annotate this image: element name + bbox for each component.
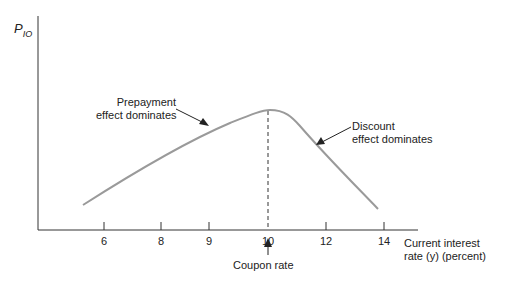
prepayment-arrow-head xyxy=(199,118,209,126)
x-axis-label: Current interest rate (y) (percent) xyxy=(404,237,486,263)
x-tick-label: 8 xyxy=(158,235,164,247)
discount-arrow-line xyxy=(322,127,351,142)
x-ticks xyxy=(104,222,384,230)
x-tick-label: 6 xyxy=(101,235,107,247)
pio-curve xyxy=(83,110,378,209)
prepayment-annotation: Prepayment effect dominates xyxy=(96,96,176,122)
coupon-rate-label: Coupon rate xyxy=(233,259,294,272)
discount-annotation: Discount effect dominates xyxy=(352,120,433,146)
y-axis-label: PIO xyxy=(14,21,32,39)
x-tick-label: 12 xyxy=(320,235,332,247)
prepayment-arrow-line xyxy=(176,109,204,123)
x-tick-label: 14 xyxy=(378,235,390,247)
x-tick-label: 10 xyxy=(262,235,274,247)
x-tick-label: 9 xyxy=(206,235,212,247)
